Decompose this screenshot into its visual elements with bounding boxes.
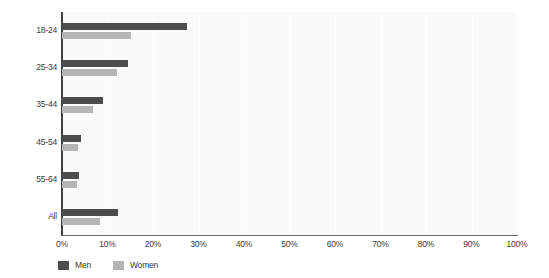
bar-group: [0, 172, 549, 188]
bar-women-25-34: [62, 69, 117, 76]
bars-layer: [0, 0, 549, 278]
bar-chart: 18-2425-3435-4445-5455-64All 0%10%20%30%…: [0, 0, 549, 278]
bar-men-18-24: [62, 23, 187, 30]
y-tick-label: All: [3, 211, 57, 221]
bar-women-All: [62, 218, 100, 225]
legend-swatch-icon: [58, 261, 69, 270]
x-tick-label: 90%: [463, 239, 479, 249]
x-tick-label: 80%: [418, 239, 434, 249]
bar-women-45-54: [62, 144, 78, 151]
x-axis-tick-labels: 0%10%20%30%40%50%60%70%80%90%100%: [0, 239, 549, 253]
x-tick-label: 30%: [190, 239, 206, 249]
y-axis-tick-labels: 18-2425-3435-4445-5455-64All: [0, 12, 57, 236]
y-tick-label: 35-44: [3, 99, 57, 109]
bar-men-25-34: [62, 60, 128, 67]
bar-women-18-24: [62, 32, 131, 39]
bar-group: [0, 23, 549, 39]
x-tick-label: 60%: [327, 239, 343, 249]
x-tick-label: 100%: [507, 239, 528, 249]
bar-group: [0, 209, 549, 225]
y-tick-label: 45-54: [3, 137, 57, 147]
bar-women-55-64: [62, 181, 77, 188]
x-tick-label: 0%: [56, 239, 68, 249]
bar-group: [0, 135, 549, 151]
y-tick-label: 55-64: [3, 174, 57, 184]
bar-group: [0, 60, 549, 76]
bar-men-35-44: [62, 97, 103, 104]
legend-label: Men: [75, 260, 91, 270]
legend-swatch-icon: [113, 261, 124, 270]
chart-legend: MenWomen: [58, 260, 158, 270]
bar-women-35-44: [62, 106, 93, 113]
x-tick-label: 10%: [99, 239, 115, 249]
bar-group: [0, 97, 549, 113]
x-tick-label: 20%: [145, 239, 161, 249]
bar-men-55-64: [62, 172, 79, 179]
x-tick-label: 70%: [372, 239, 388, 249]
y-tick-label: 18-24: [3, 25, 57, 35]
bar-men-All: [62, 209, 118, 216]
y-tick-label: 25-34: [3, 62, 57, 72]
legend-item-women[interactable]: Women: [113, 260, 158, 270]
x-tick-label: 50%: [281, 239, 297, 249]
legend-label: Women: [130, 260, 158, 270]
legend-item-men[interactable]: Men: [58, 260, 91, 270]
x-tick-label: 40%: [236, 239, 252, 249]
bar-men-45-54: [62, 135, 81, 142]
